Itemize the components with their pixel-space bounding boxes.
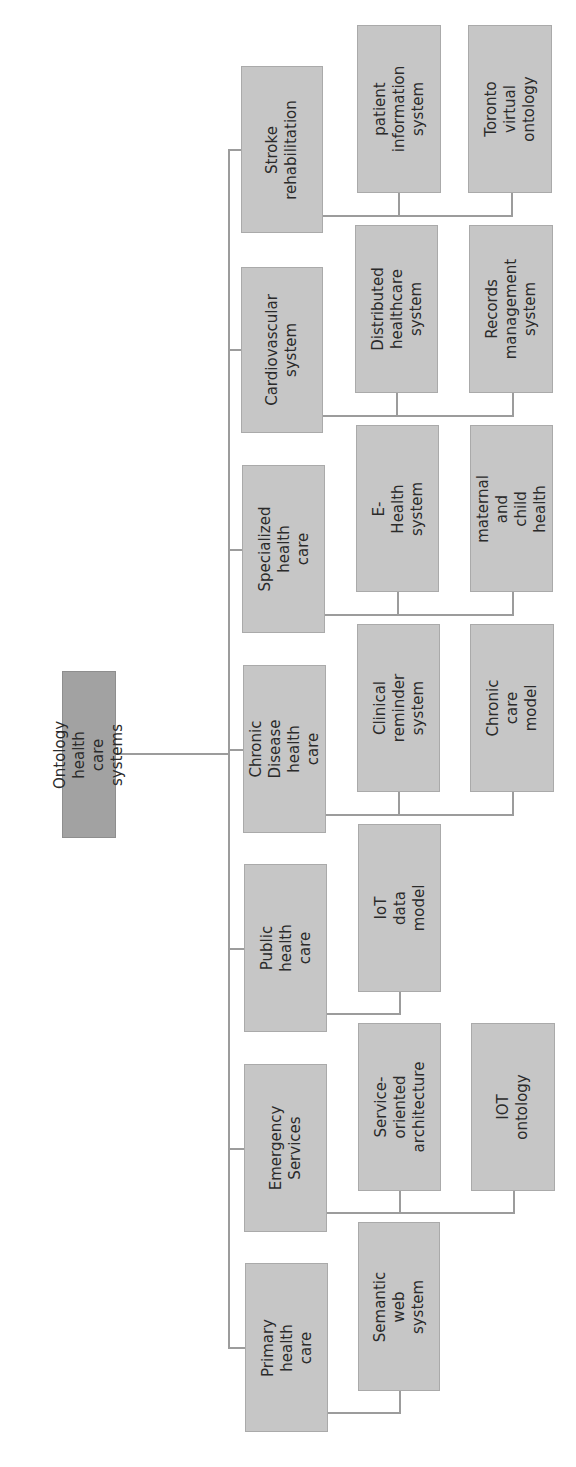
leaf-records-management-system: Records management system [469,225,553,393]
leaf-iot-ontology: IOT ontology [471,1023,555,1191]
root-node: Ontology health care systems [62,671,116,838]
tick-public [228,948,244,950]
leaf-label: Service-oriented architecture [371,1062,428,1153]
tick-stroke [228,149,242,151]
public-child-stem-1 [399,992,401,1014]
stroke-child-stem-2 [511,193,513,216]
tick-cardio [228,349,242,351]
category-label: Primary health care [258,1319,315,1377]
category-stroke-rehabilitation: Stroke rehabilitation [241,66,323,233]
chronic-child-connector [326,814,514,816]
specialized-child-stem-2 [512,592,514,615]
leaf-e-health-system: E-Health system [356,425,439,592]
leaf-label: Toronto virtual ontology [482,76,539,142]
leaf-iot-data-model: IoT data model [358,824,441,992]
specialized-child-stem-1 [397,592,399,615]
public-child-connector [327,1013,401,1015]
leaf-label: Semantic web system [371,1271,428,1341]
emergency-child-stem-2 [513,1191,515,1213]
category-primary-health-care: Primary health care [245,1263,328,1432]
leaf-label: Records management system [483,259,540,359]
chronic-child-stem-1 [398,792,400,815]
tick-primary [228,1347,245,1349]
leaf-label: IOT ontology [494,1074,532,1139]
chronic-child-stem-2 [512,792,514,815]
tick-emergency [228,1148,244,1150]
cardio-child-connector [323,415,514,417]
leaf-label: E-Health system [369,481,426,535]
category-label: Stroke rehabilitation [263,100,301,200]
stroke-child-stem-1 [398,193,400,216]
category-label: Public health care [257,924,314,971]
primary-child-stem-1 [399,1391,401,1413]
leaf-label: maternal and child health [474,475,550,543]
cardio-child-stem-2 [512,393,514,416]
leaf-maternal-and-child-health: maternal and child health [470,425,553,592]
category-cardiovascular-system: Cardiovascular system [241,267,323,433]
tick-chronic [228,749,244,751]
leaf-patient-information-system: patient information system [357,25,441,193]
leaf-label: Chronic care model [484,680,541,737]
cardio-child-stem-1 [396,393,398,416]
emergency-child-connector [327,1212,515,1214]
category-public-health-care: Public health care [244,864,327,1032]
leaf-label: Distributed healthcare system [368,267,425,350]
category-emergency-services: Emergency Services [244,1064,327,1232]
category-label: Specialized health care [255,507,312,592]
category-chronic-disease-health-care: Chronic Disease health care [243,665,326,833]
leaf-service-oriented-architecture: Service-oriented architecture [358,1023,441,1191]
leaf-label: IoT data model [371,885,428,932]
leaf-label: patient information system [371,66,428,153]
primary-child-connector [328,1412,401,1414]
leaf-semantic-web-system: Semantic web system [358,1222,440,1391]
specialized-child-connector [325,614,514,616]
leaf-distributed-healthcare-system: Distributed healthcare system [355,225,438,393]
leaf-chronic-care-model: Chronic care model [470,624,554,792]
root-connector [116,753,230,755]
root-node-label: Ontology health care systems [51,720,127,788]
leaf-toronto-virtual-ontology: Toronto virtual ontology [468,25,552,193]
category-label: Chronic Disease health care [247,720,323,779]
leaf-clinical-reminder-system: Clinical reminder system [357,624,440,792]
category-label: Emergency Services [267,1106,305,1191]
category-label: Cardiovascular system [263,294,301,406]
stroke-child-connector [323,215,513,217]
emergency-child-stem-1 [399,1191,401,1213]
category-specialized-health-care: Specialized health care [242,465,325,633]
tick-specialized [228,549,242,551]
leaf-label: Clinical reminder system [370,674,427,742]
